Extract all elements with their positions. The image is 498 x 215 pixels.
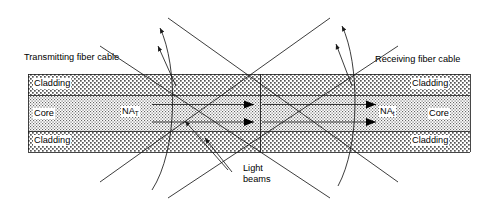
light-beams-label: Light beams: [243, 163, 271, 185]
core-label-right: Core: [428, 108, 450, 119]
receiving-fiber-cable-label: Receiving fiber cable: [375, 54, 460, 65]
transmitting-fiber-cable-label: Transmitting fiber cable: [24, 52, 119, 63]
numerical-aperture-label-transmitting: NAT: [121, 106, 140, 117]
numerical-aperture-label-receiving: NAt: [379, 106, 396, 117]
cladding-label-bottom-right: Cladding: [411, 135, 449, 146]
na-receive-base: NA: [380, 106, 393, 116]
core-label-left: Core: [33, 108, 55, 119]
light-beams-line-2: beams: [243, 174, 271, 185]
na-receive-subscript: t: [393, 110, 395, 117]
light-beams-line-1: Light: [243, 163, 271, 174]
cladding-label-top-right: Cladding: [411, 78, 449, 89]
cladding-label-top-left: Cladding: [33, 78, 71, 89]
figure-canvas: Transmitting fiber cable Receiving fiber…: [0, 0, 498, 215]
na-transmit-base: NA: [122, 106, 135, 116]
cladding-label-bottom-left: Cladding: [33, 135, 71, 146]
na-transmit-subscript: T: [135, 110, 139, 117]
